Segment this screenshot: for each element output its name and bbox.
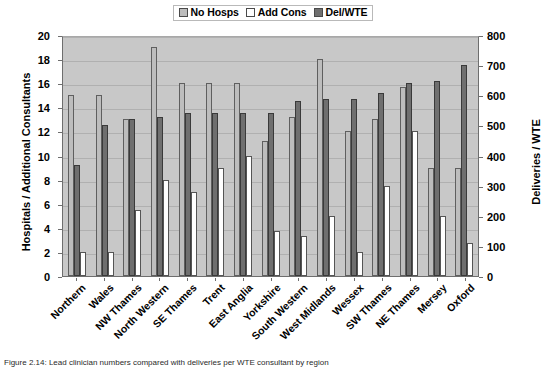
x-tick-mark bbox=[298, 278, 299, 281]
y-tick-label: 20 bbox=[38, 31, 50, 42]
x-tick-mark bbox=[382, 278, 383, 281]
y-tick-mark bbox=[58, 108, 62, 109]
y2-tick-label: 600 bbox=[487, 91, 505, 102]
legend-item-no-hosps: No Hosps bbox=[179, 7, 239, 18]
legend-label-no-hosps: No Hosps bbox=[191, 7, 239, 18]
bar-group bbox=[229, 37, 257, 276]
y-tick-label: 0 bbox=[44, 272, 50, 283]
plot-area bbox=[62, 36, 479, 277]
y2-tick-mark bbox=[479, 187, 483, 188]
y-tick-mark bbox=[58, 157, 62, 158]
y2-tick-label: 200 bbox=[487, 211, 505, 222]
y-tick-label: 14 bbox=[38, 103, 50, 114]
bar-group bbox=[257, 37, 285, 276]
y-tick-mark bbox=[58, 84, 62, 85]
bar-add-cons bbox=[412, 131, 418, 276]
x-tick-mark bbox=[104, 278, 105, 281]
y2-tick-mark bbox=[479, 157, 483, 158]
legend-swatch-del-wte bbox=[314, 8, 323, 17]
y2-tick-label: 800 bbox=[487, 31, 505, 42]
bar-add-cons bbox=[163, 180, 169, 276]
y2-tick-mark bbox=[479, 126, 483, 127]
bar-group bbox=[91, 37, 119, 276]
y-tick-mark bbox=[58, 181, 62, 182]
bar-add-cons bbox=[467, 243, 473, 276]
y-tick-label: 12 bbox=[38, 127, 50, 138]
bar-add-cons bbox=[191, 192, 197, 276]
bar-add-cons bbox=[384, 186, 390, 276]
bar-group bbox=[395, 37, 423, 276]
bar-group bbox=[174, 37, 202, 276]
y2-axis-title: Deliveries / WTE bbox=[530, 62, 542, 262]
y2-tick-mark bbox=[479, 66, 483, 67]
bar-group bbox=[450, 37, 478, 276]
x-tick-mark bbox=[465, 278, 466, 281]
legend-item-del-wte: Del/WTE bbox=[314, 7, 368, 18]
bar-add-cons bbox=[108, 252, 114, 276]
x-tick-mark bbox=[410, 278, 411, 281]
bar-group bbox=[340, 37, 368, 276]
y-tick-label: 10 bbox=[38, 151, 50, 162]
y2-tick-mark bbox=[479, 36, 483, 37]
y-tick-label: 6 bbox=[44, 199, 50, 210]
y-tick-mark bbox=[58, 36, 62, 37]
bar-group bbox=[284, 37, 312, 276]
y-tick-label: 18 bbox=[38, 55, 50, 66]
y2-tick-label: 400 bbox=[487, 151, 505, 162]
bar-add-cons bbox=[274, 231, 280, 276]
bar-add-cons bbox=[301, 236, 307, 276]
y-tick-label: 16 bbox=[38, 79, 50, 90]
y-tick-mark bbox=[58, 205, 62, 206]
legend-swatch-no-hosps bbox=[179, 8, 188, 17]
bar-add-cons bbox=[246, 156, 252, 277]
legend-item-add-cons: Add Cons bbox=[246, 7, 307, 18]
legend-label-add-cons: Add Cons bbox=[258, 7, 307, 18]
bar-add-cons bbox=[440, 216, 446, 276]
x-tick-mark bbox=[354, 278, 355, 281]
y2-tick-mark bbox=[479, 96, 483, 97]
y2-tick-label: 500 bbox=[487, 121, 505, 132]
bar-add-cons bbox=[80, 252, 86, 276]
bar-group bbox=[201, 37, 229, 276]
y-tick-mark bbox=[58, 277, 62, 278]
bar-group bbox=[423, 37, 451, 276]
x-tick-mark bbox=[326, 278, 327, 281]
y2-tick-mark bbox=[479, 247, 483, 248]
y-tick-mark bbox=[58, 132, 62, 133]
x-tick-mark bbox=[215, 278, 216, 281]
x-tick-mark bbox=[271, 278, 272, 281]
y-tick-label: 8 bbox=[44, 175, 50, 186]
x-tick-mark bbox=[159, 278, 160, 281]
legend-box: No Hosps Add Cons Del/WTE bbox=[173, 5, 374, 21]
bar-group bbox=[146, 37, 174, 276]
bar-add-cons bbox=[329, 216, 335, 276]
y-axis-labels: 02468101214161820 bbox=[0, 36, 56, 277]
y2-axis-labels: 0100200300400500600700800 bbox=[484, 36, 524, 277]
y-tick-mark bbox=[58, 60, 62, 61]
bar-group bbox=[312, 37, 340, 276]
x-tick-mark bbox=[437, 278, 438, 281]
x-tick-mark bbox=[243, 278, 244, 281]
x-axis-labels: NorthernWalesNW ThamesNorth WesternSE Th… bbox=[62, 278, 479, 348]
y2-tick-mark bbox=[479, 217, 483, 218]
y2-tick-label: 300 bbox=[487, 181, 505, 192]
x-axis-label: Northern bbox=[49, 282, 88, 321]
y2-tick-label: 700 bbox=[487, 61, 505, 72]
y-tick-label: 2 bbox=[44, 247, 50, 258]
chart-legend: No Hosps Add Cons Del/WTE bbox=[0, 5, 546, 21]
figure-caption: Figure 2.14: Lead clinician numbers comp… bbox=[4, 358, 544, 369]
bar-add-cons bbox=[218, 168, 224, 276]
y2-tick-mark bbox=[479, 277, 483, 278]
y-tick-mark bbox=[58, 229, 62, 230]
x-tick-mark bbox=[187, 278, 188, 281]
y2-tick-label: 100 bbox=[487, 241, 505, 252]
bar-add-cons bbox=[135, 210, 141, 276]
x-axis-label: Oxford bbox=[445, 282, 477, 314]
x-axis-label: Mersey bbox=[416, 282, 449, 315]
bar-del-wte bbox=[351, 99, 357, 276]
x-tick-mark bbox=[132, 278, 133, 281]
bar-group bbox=[63, 37, 91, 276]
bar-group bbox=[367, 37, 395, 276]
legend-label-del-wte: Del/WTE bbox=[326, 7, 368, 18]
x-tick-mark bbox=[76, 278, 77, 281]
